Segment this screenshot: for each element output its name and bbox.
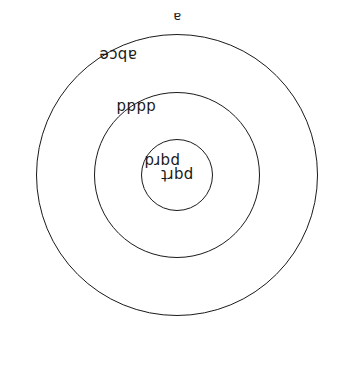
region-label-ring-outer: abce (99, 47, 137, 62)
region-label-ring-second: dddd (116, 99, 156, 114)
diagram-outer-label: a (173, 11, 181, 24)
nested-circles-diagram: a abce dddd pqrd pqrt (0, 0, 354, 392)
region-label-core: pqrt (161, 167, 194, 182)
